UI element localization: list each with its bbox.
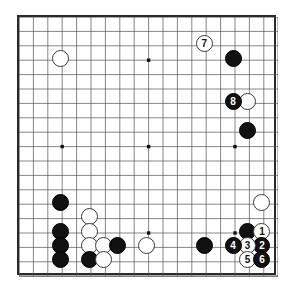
stone-black[interactable] [239, 122, 256, 139]
move-number-label: 6 [254, 252, 269, 267]
move-stone-7[interactable]: 7 [196, 35, 213, 52]
go-board-figure: Go board position diagram 12345678 [0, 0, 285, 302]
move-number-label: 8 [226, 94, 241, 109]
stone-black[interactable] [196, 237, 213, 254]
move-stone-8[interactable]: 8 [225, 93, 242, 110]
stone-black[interactable] [225, 50, 242, 67]
stone-white[interactable] [52, 50, 69, 67]
stone-white[interactable] [253, 194, 270, 211]
move-stone-6[interactable]: 6 [253, 251, 270, 268]
move-number-label: 4 [226, 238, 241, 253]
stone-black[interactable] [52, 251, 69, 268]
stone-black[interactable] [52, 194, 69, 211]
figure-title: Go board position diagram [0, 0, 1, 1]
stone-white[interactable] [138, 237, 155, 254]
move-number-label: 7 [197, 36, 212, 51]
